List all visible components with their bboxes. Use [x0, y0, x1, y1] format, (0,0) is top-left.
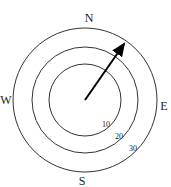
- compass-diagram: N S E W 10 20 30: [0, 0, 171, 187]
- ring-label-10: 10: [102, 120, 110, 129]
- label-west: W: [0, 93, 12, 107]
- direction-arrow: [85, 44, 124, 100]
- label-east: E: [160, 99, 167, 113]
- label-north: N: [85, 11, 94, 25]
- ring-label-20: 20: [115, 132, 123, 141]
- ring-label-30: 30: [129, 144, 137, 153]
- label-south: S: [79, 174, 86, 187]
